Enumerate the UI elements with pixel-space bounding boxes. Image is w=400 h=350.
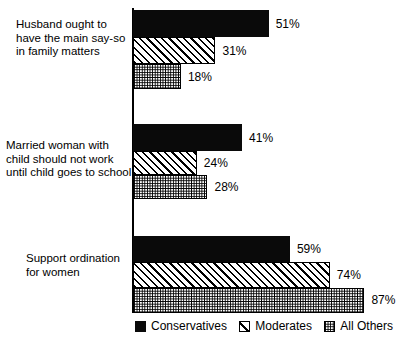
- value-label-married-woman-moderates: 24%: [204, 157, 228, 169]
- value-label-husband-all-others: 18%: [188, 71, 212, 83]
- legend-swatch-all-others-icon: [324, 321, 335, 332]
- bar-chart: Husband ought to have the main say-so in…: [0, 0, 400, 350]
- value-label-husband-moderates: 31%: [222, 45, 246, 57]
- value-label-ordination-conservatives: 59%: [297, 243, 321, 255]
- legend-swatch-moderates-icon: [239, 321, 250, 332]
- bar-husband-conservatives: [133, 10, 269, 37]
- legend-item-conservatives: Conservatives: [135, 320, 227, 332]
- legend-label-moderates: Moderates: [255, 320, 312, 332]
- category-label-married-woman-work: Married woman with child should not work…: [6, 139, 134, 180]
- value-label-ordination-all-others: 87%: [371, 294, 395, 306]
- value-label-married-woman-all-others: 28%: [214, 181, 238, 193]
- chart-legend: Conservatives Moderates All Others: [135, 318, 393, 334]
- value-label-husband-conservatives: 51%: [276, 18, 300, 30]
- legend-label-all-others: All Others: [340, 320, 393, 332]
- value-label-ordination-moderates: 74%: [337, 269, 361, 281]
- category-label-husband-say-so: Husband ought to have the main say-so in…: [16, 18, 132, 59]
- bar-ordination-conservatives: [133, 236, 290, 262]
- bar-married-woman-conservatives: [133, 124, 242, 151]
- category-label-support-ordination: Support ordination for women: [26, 252, 134, 279]
- bar-husband-all-others: [133, 64, 181, 89]
- legend-item-all-others: All Others: [324, 320, 393, 332]
- legend-label-conservatives: Conservatives: [151, 320, 227, 332]
- bar-ordination-moderates: [133, 262, 330, 288]
- legend-swatch-conservatives-icon: [135, 321, 146, 332]
- bar-married-woman-moderates: [133, 151, 197, 175]
- legend-item-moderates: Moderates: [239, 320, 312, 332]
- bar-ordination-all-others: [133, 288, 364, 313]
- value-label-married-woman-conservatives: 41%: [249, 132, 273, 144]
- bar-husband-moderates: [133, 37, 215, 64]
- bar-married-woman-all-others: [133, 175, 207, 199]
